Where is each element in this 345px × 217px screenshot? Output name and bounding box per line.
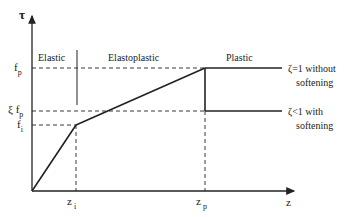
- zp-label: zp: [196, 195, 207, 211]
- with-softening-label-1: ζ<1 with: [288, 106, 323, 118]
- xi-fp-label: ξ fp: [8, 103, 23, 119]
- y-axis-label: τ: [19, 7, 25, 22]
- elastic-segment: [32, 125, 76, 191]
- fi-label: fi: [17, 118, 24, 134]
- without-softening-label-2: softening: [296, 77, 333, 88]
- elastoplastic-segment: [76, 68, 205, 125]
- x-axis-label: z: [286, 196, 291, 208]
- zi-label: zi: [67, 195, 77, 211]
- elastic-region-label: Elastic: [38, 52, 66, 63]
- stress-displacement-diagram: τ z fp ξ fp fi zi zp Elastic Elastoplast…: [0, 0, 345, 217]
- elastoplastic-region-label: Elastoplastic: [108, 52, 160, 63]
- plastic-region-label: Plastic: [226, 52, 253, 63]
- without-softening-label-1: ζ=1 without: [288, 63, 336, 75]
- with-softening-label-2: softening: [296, 120, 333, 131]
- fp-label: fp: [14, 61, 22, 77]
